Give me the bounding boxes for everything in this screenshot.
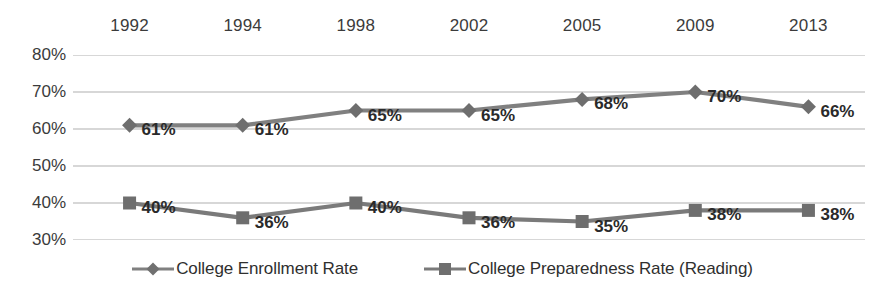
data-point-marker[interactable] [576,215,589,228]
data-label: 66% [820,102,854,122]
data-label: 70% [707,87,741,107]
y-tick-label-30: 30% [32,230,66,250]
legend-item-preparedness[interactable]: College Preparedness Rate (Reading) [424,259,753,279]
data-label: 36% [255,213,289,233]
y-tick-label-60: 60% [32,119,66,139]
data-point-marker[interactable] [462,103,477,118]
y-tick-label-70: 70% [32,82,66,102]
line-chart: 1992 1994 1998 2002 2005 2009 2013 80% 7… [0,0,885,294]
data-point-marker[interactable] [689,204,702,217]
chart-legend: College Enrollment Rate College Prepared… [0,252,885,286]
data-point-marker[interactable] [802,204,815,217]
x-tick-label-2013: 2013 [789,16,828,36]
x-tick-label-1994: 1994 [223,16,262,36]
data-label: 38% [707,205,741,225]
x-tick-label-1998: 1998 [337,16,376,36]
data-label: 61% [142,120,176,140]
x-tick-label-2009: 2009 [676,16,715,36]
data-label: 65% [481,106,515,126]
data-label: 38% [820,205,854,225]
x-tick-label-2002: 2002 [450,16,489,36]
data-point-marker[interactable] [123,197,136,210]
y-tick-label-80: 80% [32,45,66,65]
data-point-marker[interactable] [463,211,476,224]
square-marker-icon [424,261,466,277]
data-point-marker[interactable] [236,211,249,224]
data-label: 40% [368,198,402,218]
y-axis-tick-labels: 80% 70% 60% 50% 40% 30% [0,0,72,294]
data-label: 36% [481,213,515,233]
data-label: 65% [368,106,402,126]
data-point-marker[interactable] [348,103,363,118]
legend-label-enrollment: College Enrollment Rate [176,259,358,279]
y-tick-label-40: 40% [32,193,66,213]
data-point-marker[interactable] [349,197,362,210]
x-axis-tick-labels: 1992 1994 1998 2002 2005 2009 2013 [0,16,885,50]
data-label: 35% [594,217,628,237]
data-point-marker[interactable] [688,85,703,100]
data-point-marker[interactable] [575,92,590,107]
legend-item-enrollment[interactable]: College Enrollment Rate [132,259,358,279]
plot-area: 61%61%65%65%68%70%66%40%36%40%36%35%38%3… [73,55,865,240]
data-point-marker[interactable] [801,99,816,114]
data-label: 40% [142,198,176,218]
x-tick-label-1992: 1992 [110,16,149,36]
diamond-marker-icon [132,261,174,277]
plot-svg [73,55,865,240]
data-label: 61% [255,120,289,140]
legend-label-preparedness: College Preparedness Rate (Reading) [468,259,753,279]
data-point-marker[interactable] [122,118,137,133]
data-point-marker[interactable] [235,118,250,133]
y-tick-label-50: 50% [32,156,66,176]
x-tick-label-2005: 2005 [563,16,602,36]
data-label: 68% [594,94,628,114]
